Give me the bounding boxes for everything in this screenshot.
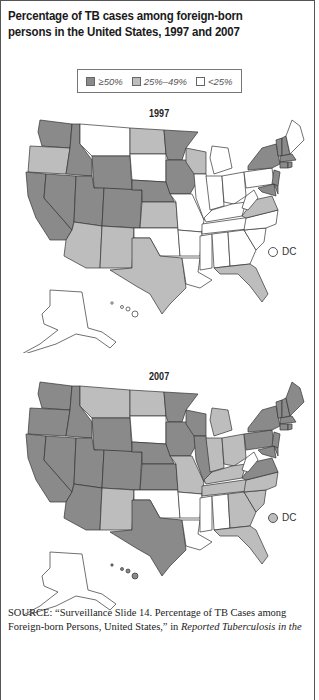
figure-title: Percentage of TB cases among foreign-bor… [8,8,275,40]
state-sd [130,154,166,182]
legend-item-high: ≥50% [86,76,122,87]
state-ny [248,406,280,432]
dc-dot-1997 [268,247,278,257]
state-mt [80,386,130,418]
state-ri [288,424,292,430]
state-co [102,188,142,228]
legend-swatch-low [196,77,205,86]
state-me [286,120,304,154]
dc-dot-2007 [268,513,278,523]
legend: ≥50% 25%–49% <25% [77,69,242,93]
state-nd [130,128,166,154]
source-note: SOURCE: “Surveillance Slide 14. Percenta… [8,606,313,634]
state-nm [100,488,134,530]
legend-label-low: <25% [208,76,233,87]
state-mi [210,408,232,436]
state-fl [214,264,268,302]
state-fl [214,526,268,564]
state-or [28,146,70,174]
state-ar [178,230,202,256]
dc-marker-2007: DC [268,512,296,523]
legend-swatch-mid [132,77,141,86]
state-or [28,408,70,436]
state-wa [38,382,72,410]
state-oh [222,172,246,204]
state-ct [280,424,288,430]
dc-label-1997: DC [282,246,296,257]
state-nd [130,390,166,416]
legend-item-low: <25% [196,76,233,87]
state-ms [200,496,212,532]
legend-item-mid: 25%–49% [132,76,187,87]
dc-marker-1997: DC [268,246,296,257]
state-ny [248,144,280,170]
dc-label-2007: DC [282,512,296,523]
us-map-2007 [0,380,315,615]
state-ks [140,464,178,490]
state-nm [100,226,134,268]
state-mi [210,146,232,174]
source-italic: Reported Tuberculosis in the [181,621,302,632]
state-co [102,450,142,490]
state-wy [92,156,132,190]
legend-swatch-high [86,77,95,86]
state-me [286,382,304,416]
legend-label-mid: 25%–49% [144,76,187,87]
state-wa [38,120,72,148]
state-ks [140,202,178,228]
state-wy [92,418,132,452]
state-sd [130,416,166,444]
source-prefix: SOURCE: [8,607,52,618]
state-ms [200,234,212,270]
state-hi [111,564,138,579]
state-mt [80,124,130,156]
legend-label-high: ≥50% [98,76,122,87]
state-nj [272,432,280,448]
state-ak [18,290,116,353]
us-map-1997 [0,118,315,353]
state-ar [178,492,202,518]
state-oh [222,434,246,466]
state-ri [288,162,292,168]
state-ct [280,162,288,168]
state-hi [111,302,138,317]
state-al [212,232,230,268]
state-al [212,494,230,530]
state-nj [272,170,280,186]
